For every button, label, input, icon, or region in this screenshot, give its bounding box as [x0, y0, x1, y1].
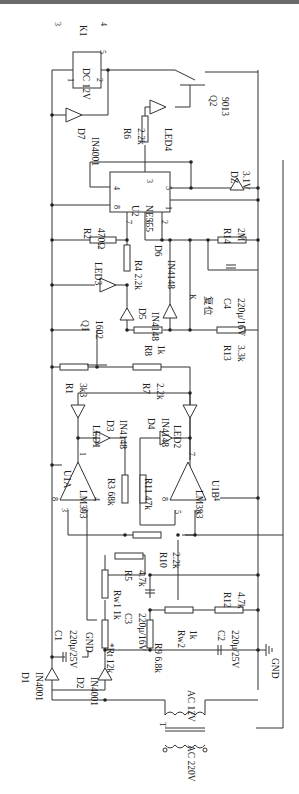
label-u1a: U1A: [62, 470, 72, 489]
label-d6v: IN4148: [166, 260, 176, 289]
r7-resistor: [133, 364, 161, 370]
transformer-secondary: [165, 712, 205, 715]
rw2-potentiometer: [165, 607, 193, 613]
label-u2p8: 8: [112, 205, 121, 209]
component-labels: K1345DC 12V12Q29013D7IN4001R62.2kLED4DZ3…: [20, 22, 280, 782]
label-u1av: LM393: [78, 490, 88, 519]
ac-terminal: [163, 748, 167, 752]
label-r14: R14: [222, 228, 232, 244]
label-u1bv: LM393: [194, 490, 204, 519]
label-u2p6: 6: [144, 220, 153, 224]
label-u1b7: 7: [187, 452, 196, 456]
label-d7v: IN4001: [90, 137, 100, 166]
label-u2p4: 4: [112, 186, 121, 190]
label-c2v: 220μ/25V: [230, 630, 240, 668]
label-gnd1: GND: [84, 632, 94, 653]
label-d1: D1: [20, 672, 30, 684]
label-rt: *Rt 12k: [105, 643, 115, 674]
label-r7: R7: [141, 383, 151, 394]
label-r10v: 2.2k: [171, 552, 181, 569]
label-relay2: 2: [95, 78, 104, 82]
label-t: T: [158, 722, 167, 727]
label-u2v: NE555: [144, 205, 154, 232]
label-d7: D7: [76, 128, 86, 140]
label-led1: LED1: [91, 425, 101, 448]
led1: [71, 405, 85, 418]
label-gnd2: GND: [270, 658, 280, 679]
label-r9: R9 6.8k: [153, 643, 163, 673]
r5-resistor: [115, 553, 143, 559]
ac-terminal: [203, 748, 207, 752]
label-c3v: 220μ/16V: [137, 613, 147, 651]
label-d6: D6: [153, 245, 163, 257]
label-led3: LED3: [93, 262, 103, 285]
label-u1a8: 8: [50, 497, 59, 501]
d6-diode: [163, 304, 177, 318]
gnd-icon: [258, 644, 272, 656]
label-r13: R13: [222, 345, 232, 361]
label-r5: R5: [123, 570, 133, 581]
label-u1a3: 3: [60, 508, 69, 512]
label-u2p2: 2: [160, 220, 169, 224]
label-d5: D5: [137, 308, 147, 320]
label-led2: LED2: [172, 425, 182, 448]
label-rw2v: 1k: [188, 630, 198, 640]
rw1-potentiometer: [102, 570, 108, 598]
label-relay: DC 12V: [81, 68, 91, 100]
label-u1a2: 2: [80, 508, 89, 512]
label-ac220: AC 220V: [186, 745, 196, 782]
transformer-core: [165, 728, 205, 731]
label-u1b5: 5: [173, 510, 182, 514]
label-d2v: IN4001: [89, 677, 99, 706]
r10-resistor: [133, 532, 161, 538]
label-u1b4: 4: [212, 497, 221, 501]
label-rw2: Rw2: [176, 630, 186, 648]
label-c4v: 220μ/16V: [236, 298, 246, 336]
label-q1v: 1602: [94, 320, 104, 339]
label-led4: LED4: [163, 128, 173, 151]
label-q2v: 9013: [220, 97, 230, 116]
d1-diode: [45, 668, 59, 680]
led2: [183, 405, 197, 418]
label-r6: R6: [122, 128, 132, 139]
label-d3v: IN4148: [118, 420, 128, 449]
label-rw1: Rw1 1k: [112, 590, 122, 620]
label-c4: C4: [222, 298, 232, 309]
label-d5v: IN4148: [150, 312, 160, 341]
label-dz: DZ: [229, 171, 239, 184]
label-u2: U2: [130, 205, 140, 217]
label-k1p4: 4: [99, 22, 108, 26]
label-k1p5: 5: [98, 50, 107, 54]
label-c3: C3: [123, 613, 133, 624]
label-r10: R10: [158, 552, 168, 568]
label-r3: R3 68k: [106, 478, 116, 506]
transformer-primary: [165, 745, 205, 748]
label-q1: Q1: [80, 320, 90, 332]
label-r6v: 2.2k: [136, 128, 146, 145]
label-u1b8: 8: [160, 497, 169, 501]
label-r14v: 2M: [236, 228, 246, 242]
r3-resistor: [122, 475, 128, 503]
label-r7v: 2.2k: [155, 383, 165, 400]
label-u1a1: 1: [78, 452, 87, 456]
label-r8v: 1k: [156, 345, 166, 355]
label-r5v: 4.7k: [137, 570, 147, 587]
label-d4: D4: [146, 418, 156, 430]
label-u2p1: 1: [164, 206, 173, 210]
r1-resistor: [60, 364, 88, 370]
label-u2p5: 5: [164, 186, 173, 190]
circuit-schematic: K1345DC 12V12Q29013D7IN4001R62.2kLED4DZ3…: [0, 0, 299, 794]
led4: [150, 100, 166, 114]
wires: [52, 70, 283, 728]
label-d1v: IN4001: [34, 672, 44, 701]
label-relay1: 1: [66, 78, 75, 82]
label-u1a4: 4: [92, 497, 101, 501]
label-c1: C1: [53, 630, 63, 641]
label-u2p3: 3: [145, 179, 154, 183]
label-d2: D2: [75, 677, 85, 689]
label-r2: R2: [82, 228, 92, 239]
label-r12: R12: [222, 592, 232, 608]
label-d4v: IN4148: [160, 418, 170, 447]
label-d3: D3: [105, 420, 115, 432]
label-kv: 复位: [203, 296, 214, 316]
